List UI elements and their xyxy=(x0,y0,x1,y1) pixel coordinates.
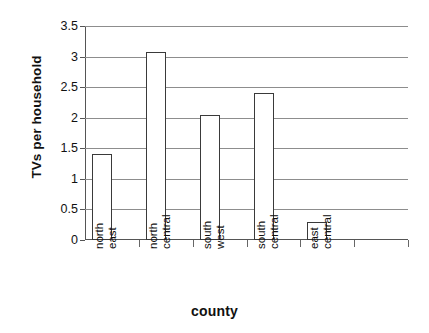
y-axis-tick-label: 0.5 xyxy=(61,203,78,216)
y-axis-tick-label: 3.5 xyxy=(61,20,78,33)
y-axis-tick xyxy=(80,240,85,241)
y-axis-line xyxy=(85,26,86,240)
y-axis-tick-label: 1.5 xyxy=(61,142,78,155)
y-axis-tick-label: 0 xyxy=(71,234,78,247)
x-axis-title: county xyxy=(0,303,429,319)
y-axis-tick-label: 3 xyxy=(71,50,78,63)
x-axis-tick xyxy=(247,240,248,247)
x-axis-category-label: southcentral xyxy=(255,249,301,263)
gridline xyxy=(85,148,408,149)
x-axis-tick xyxy=(408,240,409,247)
gridline xyxy=(85,26,408,27)
plot-area: 00.511.522.533.5 xyxy=(85,26,408,240)
y-axis-tick xyxy=(80,57,85,58)
gridline xyxy=(85,87,408,88)
y-axis-tick xyxy=(80,26,85,27)
x-axis-tick xyxy=(354,240,355,247)
y-axis-tick-label: 2 xyxy=(71,111,78,124)
y-axis-tick xyxy=(80,87,85,88)
x-axis-tick xyxy=(300,240,301,247)
y-axis-title: TVs per household xyxy=(27,17,47,217)
gridline xyxy=(85,57,408,58)
bar-chart: TVs per household 00.511.522.533.5 north… xyxy=(0,0,429,333)
x-axis-category-label: eastcentral xyxy=(308,249,354,263)
y-axis-tick xyxy=(80,148,85,149)
y-axis-tick-label: 2.5 xyxy=(61,81,78,94)
y-axis-tick xyxy=(80,118,85,119)
gridline xyxy=(85,209,408,210)
gridline xyxy=(85,179,408,180)
y-axis-tick xyxy=(80,209,85,210)
x-axis-tick xyxy=(139,240,140,247)
x-axis-category-label: northcentral xyxy=(147,249,193,263)
x-axis-category-label: northeast xyxy=(93,249,139,263)
x-axis-tick xyxy=(193,240,194,247)
y-axis-tick-label: 1 xyxy=(71,173,78,186)
x-axis-category-label: southwest xyxy=(201,249,247,263)
y-axis-tick xyxy=(80,179,85,180)
gridline xyxy=(85,118,408,119)
